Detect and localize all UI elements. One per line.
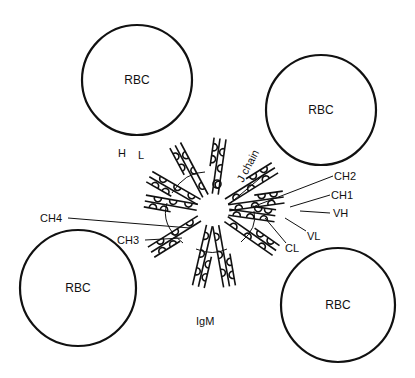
rbc-cell: RBC: [82, 25, 192, 135]
rbc-cell: RBC: [20, 230, 136, 346]
igm-monomer-arm: [213, 225, 236, 287]
leader-cl: [265, 218, 286, 243]
light-chain-domains: [159, 241, 177, 254]
diagram-canvas: RBCRBCRBCRBC H L J chain CH2 CH1 VH: [0, 0, 415, 378]
leader-ch1: [290, 195, 330, 207]
rbc-cell: RBC: [266, 55, 376, 165]
label-igm: IgM: [196, 315, 214, 327]
disulfide-arcs: [165, 172, 254, 253]
rbc-label: RBC: [124, 73, 150, 87]
heavy-chain-line: [148, 216, 198, 247]
label-ch3: CH3: [117, 234, 139, 246]
rbc-label: RBC: [65, 281, 91, 295]
leader-vh: [300, 211, 330, 213]
rbc-label: RBC: [308, 103, 334, 117]
leader-vl: [285, 218, 306, 231]
igm-monomer-arm: [210, 138, 226, 195]
igm-monomer-arm: [193, 225, 213, 288]
light-chain-line: [254, 191, 282, 195]
heavy-chain-line: [219, 225, 230, 286]
light-chain-line: [170, 148, 184, 175]
label-ch1: CH1: [331, 189, 353, 201]
leader-ch4: [68, 218, 190, 228]
rbc-label: RBC: [325, 298, 351, 312]
igm-rbc-agglutination-diagram: RBCRBCRBCRBC H L J chain CH2 CH1 VH: [0, 0, 415, 378]
label-cl: CL: [285, 242, 299, 254]
light-chain-line: [230, 254, 236, 286]
heavy-chain-line: [228, 217, 276, 251]
label-h: H: [118, 147, 126, 159]
label-vl: VL: [307, 230, 320, 242]
igm-monomer-arm: [224, 217, 279, 256]
heavy-chain-line: [224, 222, 272, 256]
label-ch4: CH4: [40, 212, 62, 224]
label-ch2: CH2: [334, 170, 356, 182]
leader-lines: [68, 174, 333, 243]
igm-monomer-arm: [148, 216, 201, 257]
label-vh: VH: [333, 207, 348, 219]
heavy-chain-line: [152, 172, 200, 200]
label-l: L: [138, 149, 144, 161]
rbc-cell: RBC: [281, 248, 395, 362]
